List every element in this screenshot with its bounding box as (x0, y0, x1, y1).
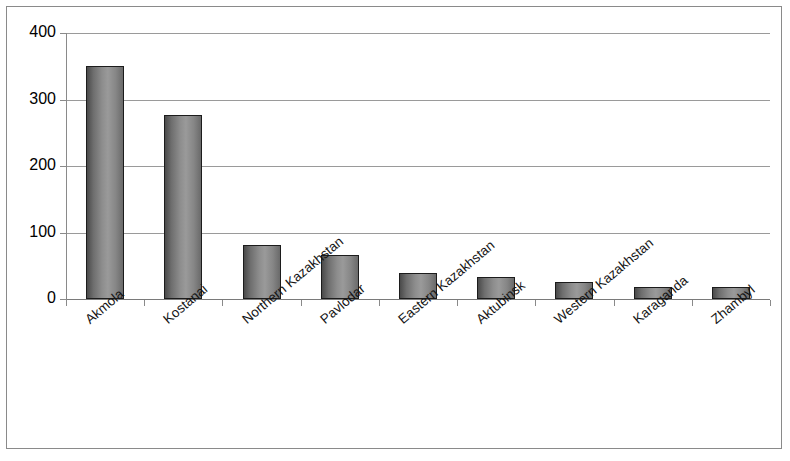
y-axis-tick-label: 200 (4, 157, 56, 173)
x-tick-mark (144, 300, 145, 306)
bar-chart: 0100200300400 AkmolaKostanaiNorthern Kaz… (0, 0, 790, 461)
y-tick-mark-100 (60, 233, 66, 234)
x-tick-mark (379, 300, 380, 306)
y-tick-300: 300 (0, 100, 56, 101)
x-tick-mark (222, 300, 223, 306)
y-tick-0: 0 (0, 299, 56, 300)
y-tick-mark-200 (60, 166, 66, 167)
x-tick-mark (66, 300, 67, 306)
y-tick-mark-300 (60, 100, 66, 101)
x-tick-mark (301, 300, 302, 306)
bar (164, 115, 202, 299)
x-tick-mark (770, 300, 771, 306)
bar (86, 66, 124, 299)
y-axis-tick-label: 400 (4, 24, 56, 40)
gridline-300 (66, 100, 770, 101)
x-tick-mark (535, 300, 536, 306)
y-axis-tick-label: 0 (4, 290, 56, 306)
y-axis-tick-label: 300 (4, 91, 56, 107)
y-tick-200: 200 (0, 166, 56, 167)
x-tick-mark (457, 300, 458, 306)
y-tick-mark-400 (60, 33, 66, 34)
y-axis-tick-label: 100 (4, 224, 56, 240)
y-tick-400: 400 (0, 33, 56, 34)
x-tick-mark (614, 300, 615, 306)
y-tick-100: 100 (0, 233, 56, 234)
y-axis-line (66, 33, 67, 300)
gridline-400 (66, 33, 770, 34)
x-tick-mark (692, 300, 693, 306)
